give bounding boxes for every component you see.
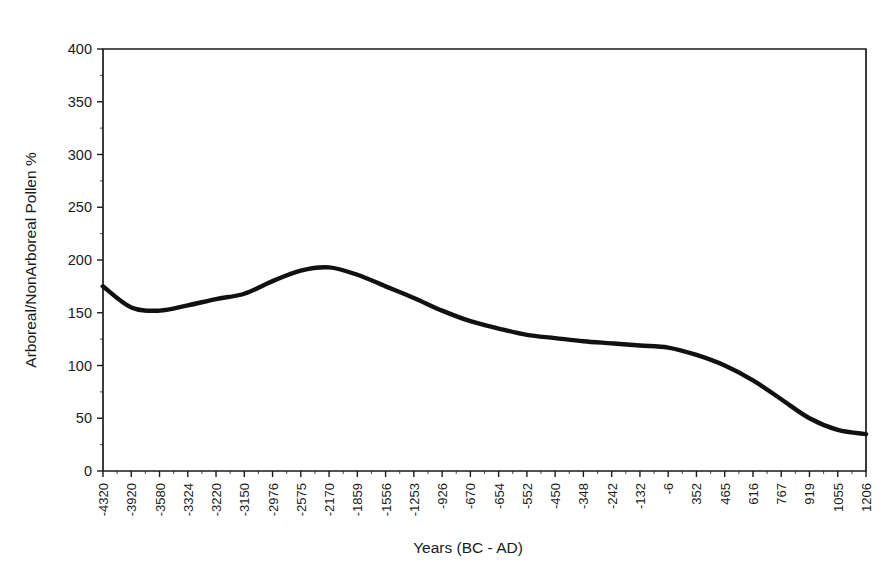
x-axis-tick-label: -3220 xyxy=(209,483,224,516)
x-axis-tick-label: 767 xyxy=(774,483,789,505)
x-axis-tick-label: 352 xyxy=(689,483,704,505)
x-axis-tick-label: -654 xyxy=(492,483,507,509)
pollen-line-chart: 050100150200250300350400 -4320-3920-3580… xyxy=(0,0,896,583)
x-axis-tick-label: -552 xyxy=(520,483,535,509)
x-axis-tick-label: -4320 xyxy=(96,483,111,516)
x-axis-tick-label: -348 xyxy=(576,483,591,509)
y-axis-tick-label: 350 xyxy=(68,94,92,110)
x-axis-tick-label: -242 xyxy=(605,483,620,509)
y-axis-tick-label: 200 xyxy=(68,252,92,268)
y-axis-tick-label: 400 xyxy=(68,41,92,57)
x-axis-tick-label: -3324 xyxy=(181,483,196,516)
x-axis-tick-label: -2575 xyxy=(294,483,309,516)
x-axis-tick-label: -670 xyxy=(463,483,478,509)
x-axis-tick-label: 1206 xyxy=(859,483,874,512)
x-axis-tick-label: -3920 xyxy=(124,483,139,516)
y-axis-tick-label: 100 xyxy=(68,358,92,374)
chart-canvas: 050100150200250300350400 -4320-3920-3580… xyxy=(0,0,896,583)
x-axis-tick-label: -2976 xyxy=(266,483,281,516)
x-axis-tick-label: 616 xyxy=(746,483,761,505)
x-axis-tick-label: -1253 xyxy=(407,483,422,516)
x-axis-tick-label: -926 xyxy=(435,483,450,509)
x-axis-tick-label: 919 xyxy=(802,483,817,505)
y-axis-tick-label: 250 xyxy=(68,199,92,215)
x-axis-tick-label: -3580 xyxy=(153,483,168,516)
x-axis-tick-label: 465 xyxy=(718,483,733,505)
x-axis-tick-label: -6 xyxy=(661,483,676,495)
x-axis-title: Years (BC - AD) xyxy=(413,539,523,556)
y-axis-title: Arboreal/NonArboreal Pollen % xyxy=(22,152,39,368)
x-axis-tick-label: -1556 xyxy=(379,483,394,516)
x-axis-tick-label: -450 xyxy=(548,483,563,509)
x-axis-tick-label: -3150 xyxy=(237,483,252,516)
y-axis-tick-label: 300 xyxy=(68,147,92,163)
chart-figure: 050100150200250300350400 -4320-3920-3580… xyxy=(0,0,896,583)
y-axis-tick-label: 0 xyxy=(84,463,92,479)
y-axis-tick-label: 150 xyxy=(68,305,92,321)
x-axis-tick-label: 1055 xyxy=(831,483,846,512)
x-axis-tick-label: -132 xyxy=(633,483,648,509)
x-axis-tick-label: -1859 xyxy=(350,483,365,516)
x-axis-tick-label: -2170 xyxy=(322,483,337,516)
y-axis-tick-label: 50 xyxy=(76,410,92,426)
